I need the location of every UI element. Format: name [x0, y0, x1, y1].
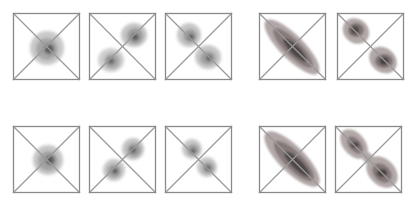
panel-2-1 [13, 126, 80, 193]
density-plot-two-blobs-anti-diagonal [89, 13, 156, 80]
density-plot-two-blobs-main-diagonal [165, 13, 232, 80]
density-plot-two-lobes [337, 13, 404, 80]
density-plot-elongated-ellipse [259, 126, 326, 193]
panel-1-2 [89, 13, 156, 80]
density-plot-two-blobs-anti-diagonal [89, 126, 156, 193]
panel-1-3 [165, 13, 232, 80]
density-plot-single-blob [13, 13, 80, 80]
panel-2-4 [259, 126, 326, 193]
density-plot-elongated-ellipse [259, 13, 326, 80]
density-plot-single-blob [13, 126, 80, 193]
panel-2-5 [335, 126, 402, 193]
panel-2-2 [89, 126, 156, 193]
panel-1-5 [337, 13, 404, 80]
panel-1-4 [259, 13, 326, 80]
density-plot-joined-lobes [335, 126, 402, 193]
panel-1-1 [13, 13, 80, 80]
density-plot-two-blobs-main-diagonal [165, 126, 232, 193]
panel-2-3 [165, 126, 232, 193]
